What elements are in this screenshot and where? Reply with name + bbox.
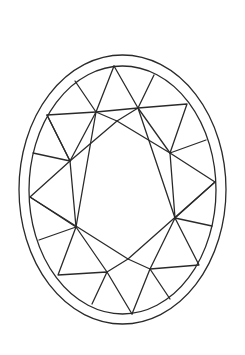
- facet-line: [107, 272, 132, 314]
- facet-line: [47, 115, 70, 161]
- facet-line: [33, 112, 96, 161]
- facet-line: [70, 161, 76, 227]
- facet-line: [128, 182, 215, 259]
- facet-line: [58, 227, 107, 304]
- facet-line: [170, 153, 175, 218]
- facet-line: [150, 218, 199, 299]
- facet-line: [132, 269, 150, 314]
- facet-line: [76, 112, 96, 227]
- inner-girdle-outline: [29, 66, 216, 314]
- facet-line: [96, 112, 170, 153]
- facet-line: [75, 66, 114, 112]
- facet-line: [70, 108, 170, 161]
- facet-line: [138, 104, 206, 153]
- facet-line: [138, 108, 175, 218]
- facet-line: [76, 218, 175, 272]
- diagram-canvas: Oval brilliant cut gemstone facet diagra…: [0, 0, 245, 355]
- facet-line: [114, 66, 154, 108]
- outer-girdle-outline: [19, 55, 226, 324]
- facet-line: [30, 161, 76, 240]
- oval-gem-facet-diagram: [0, 0, 245, 355]
- facet-lines: [30, 66, 215, 314]
